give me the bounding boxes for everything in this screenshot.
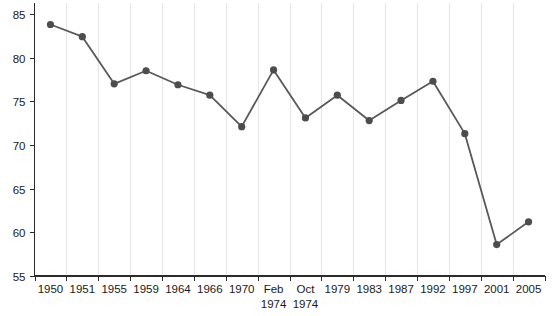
data-point-marker xyxy=(334,92,341,99)
y-tick-label: 55 xyxy=(13,271,26,283)
x-tick-label: 1979 xyxy=(325,283,351,295)
gridlines xyxy=(67,3,514,276)
data-point-marker xyxy=(302,114,309,121)
x-tick-label: 1970 xyxy=(229,283,255,295)
data-point-marker xyxy=(47,21,54,28)
x-tick-label: 1959 xyxy=(133,283,159,295)
x-tick-label: 1987 xyxy=(388,283,414,295)
x-tick-label: Feb xyxy=(264,283,284,295)
line-chart: 1950195119551959196419661970Feb1974Oct19… xyxy=(0,0,553,316)
x-tick-label: Oct xyxy=(296,283,315,295)
data-point-marker xyxy=(111,80,118,87)
data-point-marker xyxy=(366,117,373,124)
x-tick-label: 1951 xyxy=(70,283,96,295)
x-tick-label: 1992 xyxy=(420,283,446,295)
x-tick-label: 1964 xyxy=(165,283,191,295)
x-tick-label: 2005 xyxy=(516,283,542,295)
y-tick-label: 60 xyxy=(13,227,26,239)
data-point-marker xyxy=(525,218,532,225)
x-axis xyxy=(35,276,546,281)
data-point-marker xyxy=(174,81,181,88)
data-point-marker xyxy=(397,97,404,104)
x-tick-label: 1974 xyxy=(261,298,287,310)
data-point-marker xyxy=(493,241,500,248)
data-point-marker xyxy=(142,67,149,74)
x-tick-label: 1997 xyxy=(452,283,478,295)
series-line-turnout xyxy=(50,24,528,244)
y-axis-tick-labels: 55606570758085 xyxy=(13,9,26,283)
y-tick-label: 80 xyxy=(13,53,26,65)
y-tick-label: 70 xyxy=(13,140,26,152)
y-tick-label: 85 xyxy=(13,9,26,21)
data-point-marker xyxy=(79,33,86,40)
data-point-marker xyxy=(270,66,277,73)
data-series xyxy=(47,21,532,248)
y-tick-label: 75 xyxy=(13,96,26,108)
x-tick-label: 1950 xyxy=(38,283,64,295)
x-axis-tick-labels: 1950195119551959196419661970Feb1974Oct19… xyxy=(38,283,542,310)
data-point-marker xyxy=(206,92,213,99)
x-tick-label: 1983 xyxy=(356,283,382,295)
x-tick-label: 1966 xyxy=(197,283,223,295)
y-tick-label: 65 xyxy=(13,184,26,196)
x-tick-label: 2001 xyxy=(484,283,510,295)
data-point-marker xyxy=(429,78,436,85)
data-point-marker xyxy=(238,123,245,130)
x-tick-label: 1974 xyxy=(293,298,319,310)
x-tick-label: 1955 xyxy=(101,283,127,295)
chart-canvas: 1950195119551959196419661970Feb1974Oct19… xyxy=(0,0,553,316)
y-axis xyxy=(30,3,35,277)
data-point-marker xyxy=(461,130,468,137)
